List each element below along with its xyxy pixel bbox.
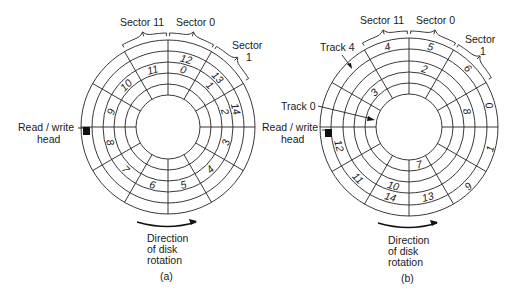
sector-1-label-line2: 1 <box>480 45 486 57</box>
block-number: 7 <box>120 163 133 176</box>
block-number: 8 <box>104 138 117 147</box>
block-number: 10 <box>118 76 135 93</box>
rotation-label-line3: rotation <box>147 254 182 266</box>
track-4-label: Track 4 <box>320 41 355 53</box>
read-write-head-icon <box>325 129 332 137</box>
block-number: 2 <box>419 62 429 75</box>
head-label-line1: Read / write <box>18 121 74 133</box>
sector-1-label-line1: Sector <box>232 39 263 51</box>
sector-11-label: Sector 11 <box>120 16 164 28</box>
panel-b-caption: (b) <box>401 272 414 284</box>
head-label-line1: Read / write <box>262 121 318 133</box>
track-0-leader <box>318 106 372 119</box>
panel-a-caption: (a) <box>160 270 173 282</box>
disk-layout-figure: 12131401234567891011 Sector 11 Sector 0 … <box>0 0 513 292</box>
panel-b-disk: 01234567891011121314 Sector 11 Sector 0 … <box>262 14 498 284</box>
block-number: 3 <box>219 138 232 147</box>
block-number: 4 <box>204 163 217 176</box>
rotation-label-line3: rotation <box>388 256 423 268</box>
block-numbers: 01234567891011121314 <box>332 40 496 204</box>
disk-geometry <box>81 40 255 214</box>
block-number: 5 <box>179 178 188 191</box>
sector-11-brace <box>122 32 166 48</box>
head-label-line2: head <box>281 133 305 145</box>
head-label-line2: head <box>37 133 61 145</box>
sector-1-label-line1: Sector <box>465 33 496 45</box>
block-number: 8 <box>461 107 474 116</box>
sector-1-brace <box>457 45 491 79</box>
block-number: 0 <box>483 101 496 110</box>
sector-11-label: Sector 11 <box>360 14 404 26</box>
block-numbers: 12131401234567891011 <box>104 52 243 191</box>
block-number: 5 <box>426 40 435 53</box>
block-number: 9 <box>462 180 475 193</box>
panel-a-disk: 12131401234567891011 Sector 11 Sector 0 … <box>18 16 263 282</box>
block-number: 11 <box>350 170 366 186</box>
sector-0-brace <box>170 32 214 48</box>
sector-0-label: Sector 0 <box>176 16 215 28</box>
block-number: 1 <box>483 144 496 153</box>
block-number: 4 <box>383 40 392 53</box>
rotation-arrow-icon <box>137 222 196 227</box>
block-number: 6 <box>462 62 475 75</box>
block-number: 1 <box>204 79 217 92</box>
block-number: 11 <box>146 62 160 76</box>
sector-0-label: Sector 0 <box>416 14 455 26</box>
block-number: 9 <box>104 107 117 116</box>
block-number: 3 <box>368 86 381 99</box>
rotation-arrow-icon <box>378 223 437 228</box>
figure-canvas: 12131401234567891011 Sector 11 Sector 0 … <box>0 0 513 292</box>
sector-1-label-line2: 1 <box>246 51 252 63</box>
track-0-arrowhead-icon <box>367 116 375 121</box>
block-number: 0 <box>179 63 188 76</box>
track-4-arrowhead-icon <box>347 63 352 69</box>
read-write-head-icon <box>83 127 90 135</box>
track-0-label: Track 0 <box>281 100 316 112</box>
block-number: 2 <box>219 106 232 116</box>
block-number: 6 <box>148 178 157 191</box>
block-number: 7 <box>415 157 425 170</box>
